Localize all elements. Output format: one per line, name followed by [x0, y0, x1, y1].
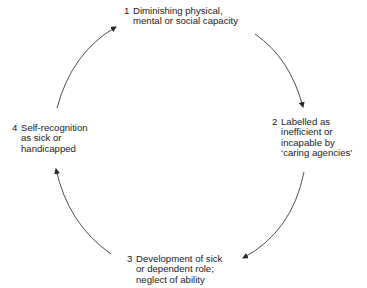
node-number: 2	[272, 117, 281, 127]
node-label-line: handicapped	[21, 144, 88, 154]
arrow-3-to-4	[56, 169, 111, 254]
arrow-4-to-1	[57, 27, 116, 108]
cycle-diagram: 1 Diminishing physical, mental or social…	[0, 0, 367, 288]
node-label-line: neglect of ability	[136, 275, 222, 285]
node-self-recognition: 4 Self-recognition as sick or handicappe…	[12, 123, 88, 154]
node-dependent-role: 3 Development of sick or dependent role;…	[127, 254, 222, 285]
node-diminishing-capacity: 1 Diminishing physical, mental or social…	[124, 6, 238, 27]
arrow-1-to-2	[255, 34, 303, 107]
node-label-line: mental or social capacity	[133, 16, 238, 26]
node-number: 4	[12, 123, 21, 133]
node-number: 1	[124, 6, 133, 16]
arrow-2-to-3	[243, 172, 304, 258]
node-label-line: ‘caring agencies’	[281, 148, 352, 158]
node-labelled-inefficient: 2 Labelled as inefficient or incapable b…	[272, 117, 352, 159]
node-number: 3	[127, 254, 136, 264]
